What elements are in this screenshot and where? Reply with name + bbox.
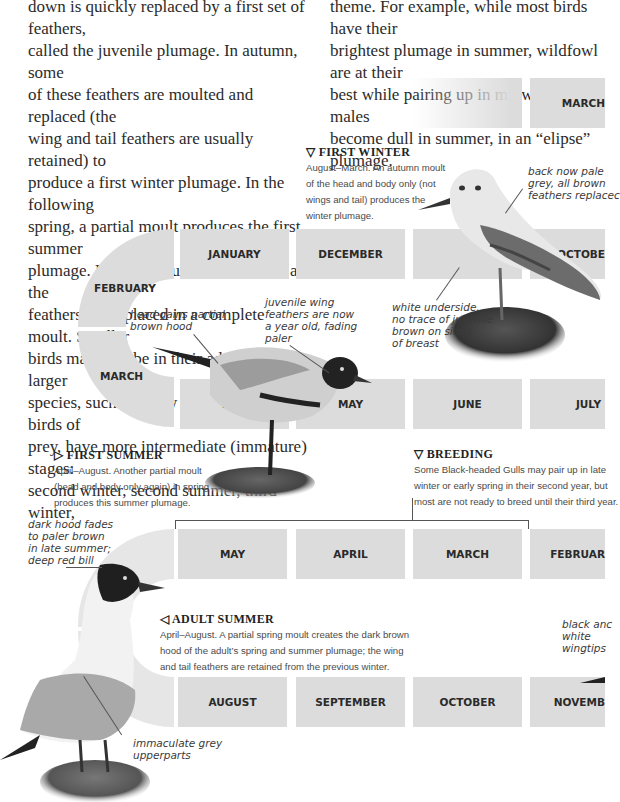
adult-summer-gull-image xyxy=(0,560,180,802)
breeding-caption: ▽ BREEDING Some Black-headed Gulls may p… xyxy=(414,447,614,510)
intro-line: down is quickly replaced by a first set … xyxy=(28,0,308,40)
month-block-may-adult: MAY xyxy=(178,529,287,579)
breeding-text: Some Black-headed Gulls may pair up in l… xyxy=(414,462,614,510)
annotation-back-pale: back now pale grey, all brown feathers r… xyxy=(528,165,620,201)
month-block-march: MARCH xyxy=(530,78,605,128)
annotation-head-hood: head gains partial brown hood xyxy=(130,308,225,332)
intro-line: called the juvenile plumage. In autumn, … xyxy=(28,40,308,84)
month-block-july: JULY xyxy=(530,379,605,429)
month-label-march: MARCH xyxy=(100,370,143,382)
intro-line: produce a first winter plumage. In the f… xyxy=(28,172,308,216)
adult-summer-text: April–August. A partial spring moult cre… xyxy=(160,627,460,675)
month-block-february: FEBRUAR xyxy=(530,529,605,579)
month-label-february: FEBRUARY xyxy=(94,282,156,294)
adult-summer-title: ◁ ADULT SUMMER xyxy=(160,612,460,627)
intro-line: of these feathers are moulted and replac… xyxy=(28,84,308,128)
first-winter-text: August–March. An autumn moult of the hea… xyxy=(306,160,456,224)
triangle-down-icon: ▽ xyxy=(414,447,423,461)
month-block-august: AUGUST xyxy=(178,677,287,727)
breeding-bracket xyxy=(175,520,529,529)
first-summer-caption: ▷ FIRST SUMMER April–August. Another par… xyxy=(54,448,254,511)
triangle-left-icon: ◁ xyxy=(160,612,169,626)
month-block-october-adult: OCTOBER xyxy=(413,677,522,727)
first-summer-title: ▷ FIRST SUMMER xyxy=(54,448,254,463)
triangle-right-icon: ▷ xyxy=(54,448,63,462)
adult-summer-caption: ◁ ADULT SUMMER April–August. A partial s… xyxy=(160,612,460,675)
first-winter-caption: ▽ FIRST WINTER August–March. An autumn m… xyxy=(306,145,456,224)
triangle-down-icon: ▽ xyxy=(306,145,315,159)
annotation-juvenile-wing: juvenile wing feathers are now a year ol… xyxy=(265,296,357,344)
month-block-december: DECEMBER xyxy=(296,229,405,279)
annotation-dark-hood: dark hood fades to paler brown in late s… xyxy=(28,518,113,566)
month-block-september: SEPTEMBER xyxy=(296,677,405,727)
intro-line: wing and tail feathers are usually retai… xyxy=(28,128,308,172)
breeding-title: ▽ BREEDING xyxy=(414,447,614,462)
annotation-white-underside: white underside, no trace of juvenile br… xyxy=(392,301,494,349)
wingtip-image xyxy=(580,675,605,687)
month-block-april: APRIL xyxy=(296,529,405,579)
month-block xyxy=(413,78,522,128)
breeding-bracket-stem xyxy=(412,498,413,520)
annotation-upperparts: immaculate grey upperparts xyxy=(133,737,222,761)
annotation-wingtips: black anc white wingtips xyxy=(562,618,612,654)
month-block-january: JANUARY xyxy=(180,229,289,279)
month-block-june: JUNE xyxy=(413,379,522,429)
leader-line xyxy=(66,567,102,568)
first-summer-text: April–August. Another partial moult (hea… xyxy=(54,463,254,511)
intro-line: theme. For example, while most birds hav… xyxy=(330,0,610,40)
first-winter-title: ▽ FIRST WINTER xyxy=(306,145,456,160)
month-block-march-breeding: MARCH xyxy=(413,529,522,579)
